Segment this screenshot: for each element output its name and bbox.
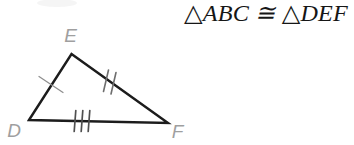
tick-mark-de-1 xyxy=(39,77,63,93)
vertex-label-D: D xyxy=(7,120,21,141)
tick-mark-df-3 xyxy=(88,111,90,132)
vertex-label-F: F xyxy=(172,121,185,142)
scan-smudge xyxy=(37,0,77,7)
worksheet-figure: △ABC ≅ △DEF E D F xyxy=(0,0,354,145)
side-DE-tick-marks xyxy=(39,77,63,93)
congruence-statement: △ABC ≅ △DEF xyxy=(184,0,348,26)
vertex-label-E: E xyxy=(64,25,77,46)
tick-mark-df-1 xyxy=(74,111,76,132)
triangle-DEF-outline xyxy=(29,54,168,123)
congruent-triangles-diagram: △ABC ≅ △DEF E D F xyxy=(0,0,354,145)
tick-mark-df-2 xyxy=(81,111,83,132)
